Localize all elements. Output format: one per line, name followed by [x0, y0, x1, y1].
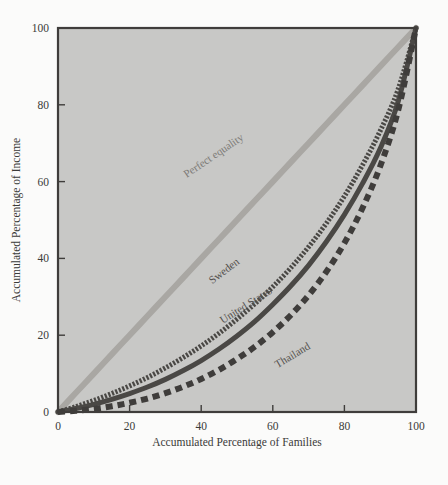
y-tick-label: 20: [38, 329, 50, 341]
y-tick-label: 80: [38, 99, 50, 111]
x-tick-label: 0: [55, 420, 61, 432]
y-tick-label: 40: [38, 252, 50, 264]
x-tick-label: 20: [124, 420, 136, 432]
x-tick-label: 80: [339, 420, 351, 432]
x-tick-label: 60: [267, 420, 279, 432]
y-axis-title: Accumulated Percentage of Income: [10, 138, 23, 302]
y-tick-label: 100: [32, 22, 50, 34]
x-axis-title: Accumulated Percentage of Families: [152, 436, 322, 449]
y-tick-label: 60: [38, 176, 50, 188]
lorenz-curve-figure: 020406080100 020406080100 Perfect equali…: [0, 0, 448, 485]
chart-canvas: 020406080100 020406080100 Perfect equali…: [0, 0, 448, 485]
y-tick-label: 0: [43, 406, 49, 418]
x-tick-label: 100: [407, 420, 425, 432]
x-tick-label: 40: [195, 420, 207, 432]
